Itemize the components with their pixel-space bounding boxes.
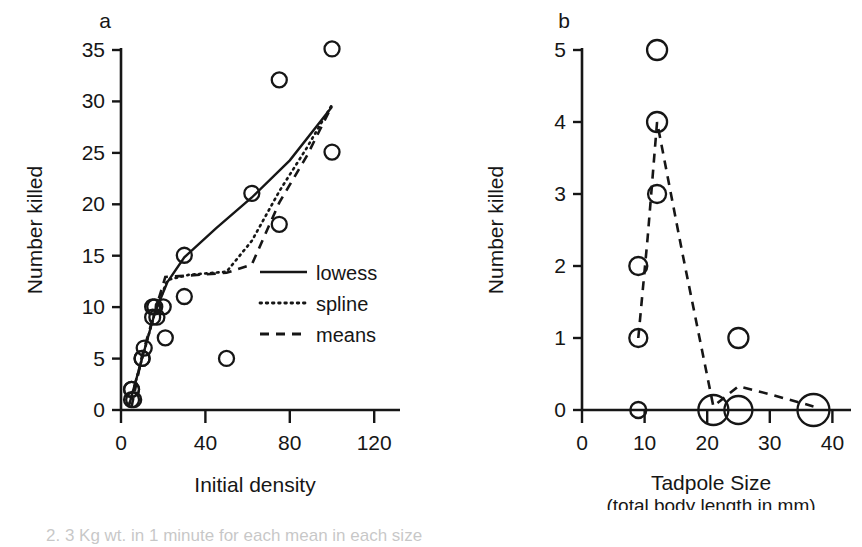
curve-means-b	[638, 122, 813, 406]
legend-label-means: means	[316, 324, 376, 346]
data-point	[272, 72, 287, 87]
caption-text: 2. 3 Kg wt. in 1 minute for each mean in…	[46, 528, 422, 546]
data-point	[272, 217, 287, 232]
panel-b-y-axis-title: Number killed	[484, 166, 507, 294]
panel-a-ytick-10: 10	[82, 295, 105, 318]
panel-b-ytick-2: 2	[554, 254, 566, 277]
panel-a-ytick-25: 25	[82, 141, 105, 164]
panel-b-xtick-40: 40	[821, 431, 844, 454]
data-point	[177, 289, 192, 304]
data-point	[325, 145, 340, 160]
panel-a-plot: a 0 5 10 15 20 25 30	[0, 0, 431, 510]
panel-a-curves	[129, 105, 332, 407]
panel-b-x-axis-subtitle: (total body length in mm)	[606, 495, 815, 510]
panel-b-ytick-3: 3	[554, 182, 566, 205]
panel-a-ytick-5: 5	[93, 347, 105, 370]
figure-container: a 0 5 10 15 20 25 30	[0, 0, 862, 547]
panel-b-x-ticks: 0 10 20 30 40	[576, 410, 844, 454]
panel-b-plot: b 0 1 2 3 4 5 0 10	[431, 0, 862, 510]
panel-a-xtick-40: 40	[194, 431, 217, 454]
panel-a-xtick-120: 120	[357, 431, 392, 454]
panel-a-xtick-80: 80	[278, 431, 301, 454]
legend-label-spline: spline	[316, 293, 368, 315]
panel-a-y-axis-title: Number killed	[23, 166, 46, 294]
panel-a-ytick-0: 0	[93, 398, 105, 421]
panel-a-x-ticks: 0 40 80 120	[115, 410, 392, 454]
panel-b-y-ticks: 0 1 2 3 4 5	[554, 38, 582, 421]
panel-b-xtick-0: 0	[576, 431, 588, 454]
curve-spline-a	[129, 105, 332, 404]
panel-b-ytick-5: 5	[554, 38, 566, 61]
panel-a-datapoints	[124, 41, 339, 407]
panel-a-y-ticks: 0 5 10 15 20 25 30 35	[82, 38, 121, 421]
panel-b-xtick-10: 10	[633, 431, 656, 454]
panel-b-ytick-1: 1	[554, 326, 566, 349]
panel-b-curves	[638, 122, 813, 406]
caption-strip: 2. 3 Kg wt. in 1 minute for each mean in…	[0, 528, 862, 547]
panel-b-xtick-30: 30	[758, 431, 781, 454]
panel-a: a 0 5 10 15 20 25 30	[0, 0, 431, 510]
panel-a-xtick-0: 0	[115, 431, 127, 454]
legend-label-lowess: lowess	[316, 262, 377, 284]
panel-b-ytick-4: 4	[554, 110, 566, 133]
panel-a-ytick-35: 35	[82, 38, 105, 61]
panel-b-x-axis-title: Tadpole Size	[651, 471, 771, 494]
curve-lowess-a	[129, 107, 332, 404]
panel-b-datapoints	[629, 40, 829, 426]
panel-a-legend: lowess spline means	[260, 262, 377, 346]
panel-b-letter: b	[558, 9, 570, 32]
data-point	[728, 328, 748, 348]
panel-b: b 0 1 2 3 4 5 0 10	[431, 0, 862, 510]
data-point	[325, 41, 340, 56]
panel-a-ytick-30: 30	[82, 89, 105, 112]
panel-b-xtick-20: 20	[696, 431, 719, 454]
panel-a-x-axis-title: Initial density	[194, 473, 316, 496]
data-point	[647, 40, 667, 60]
panel-a-letter: a	[99, 9, 111, 32]
panel-a-ytick-20: 20	[82, 192, 105, 215]
data-point	[177, 248, 192, 263]
panel-a-ytick-15: 15	[82, 244, 105, 267]
data-point	[219, 351, 234, 366]
data-point	[158, 330, 173, 345]
panel-b-ytick-0: 0	[554, 398, 566, 421]
curve-means-a	[132, 106, 332, 407]
